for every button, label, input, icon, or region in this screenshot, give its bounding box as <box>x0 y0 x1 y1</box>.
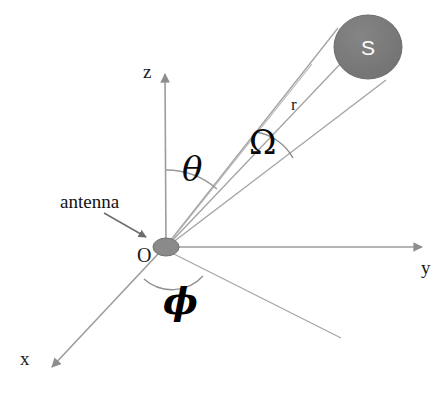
antenna-label: antenna <box>60 192 119 211</box>
antenna-marker <box>153 238 179 256</box>
spherical-coordinate-diagram: z y x O antenna r θ ϕ Ω S <box>0 0 446 394</box>
origin-label: O <box>137 245 151 265</box>
x-axis-label: x <box>20 349 30 368</box>
x-axis-line <box>52 254 158 367</box>
theta-label: θ <box>182 152 202 186</box>
axis-group <box>52 74 422 367</box>
phi-label: ϕ <box>163 283 198 320</box>
z-axis-label: z <box>143 62 151 81</box>
y-axis-label: y <box>421 258 431 277</box>
antenna-pointer-group <box>104 213 146 237</box>
source-sphere-label: S <box>361 36 375 60</box>
z-axis-line <box>165 74 166 247</box>
cone-ray-lower <box>172 80 386 243</box>
omega-label: Ω <box>249 126 276 159</box>
range-label-r: r <box>291 96 297 113</box>
antenna-arrow <box>104 213 146 237</box>
